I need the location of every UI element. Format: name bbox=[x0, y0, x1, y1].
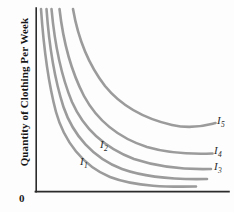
curve-label-i1: I1 bbox=[80, 156, 87, 167]
curve-label-i2: I2 bbox=[100, 139, 107, 150]
curve-label-i5: I5 bbox=[217, 115, 224, 126]
origin-label: 0 bbox=[19, 193, 25, 204]
indifference-curve-figure: Quantity of Clothing Per Week 0 I1 I2 I3… bbox=[0, 0, 234, 212]
indifference-curve-3 bbox=[52, 9, 212, 169]
curve-label-i3: I3 bbox=[214, 161, 221, 172]
curve-label-i4: I4 bbox=[214, 145, 221, 156]
indifference-curve-4 bbox=[60, 9, 213, 154]
y-axis-label: Quantity of Clothing Per Week bbox=[18, 16, 30, 168]
chart-canvas bbox=[0, 0, 234, 212]
indifference-curve-5 bbox=[73, 9, 216, 127]
